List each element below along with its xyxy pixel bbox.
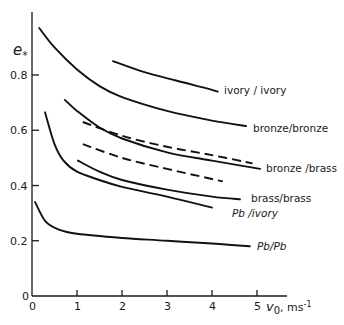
axes bbox=[32, 12, 287, 296]
curve-bronze-bronze bbox=[39, 28, 246, 126]
label-pb-ivory: Pb /ivory bbox=[232, 207, 279, 219]
y-ticks: 00.20.40.60.8 bbox=[10, 69, 39, 303]
curve-dashed-lower bbox=[83, 144, 223, 181]
label-ivory-ivory: ivory / ivory bbox=[224, 84, 286, 96]
y-axis-label: e* bbox=[13, 41, 28, 62]
x-axis-label: v0, ms-1 bbox=[266, 299, 312, 316]
label-pb-pb: Pb/Pb bbox=[257, 240, 287, 252]
label-bronze-brass: bronze /brass bbox=[266, 162, 337, 174]
x-tick-label: 1 bbox=[74, 300, 81, 313]
y-tick-label: 0.8 bbox=[10, 69, 28, 82]
x-tick-label: 2 bbox=[119, 300, 126, 313]
label-bronze-bronze: bronze/bronze bbox=[253, 122, 328, 134]
y-tick-label: 0 bbox=[22, 290, 29, 303]
y-tick-label: 0.2 bbox=[10, 235, 28, 248]
x-tick-label: 3 bbox=[164, 300, 171, 313]
curve-pb-pb bbox=[35, 202, 250, 246]
curve-bronze-brass-dashed-upper bbox=[83, 122, 253, 163]
curves bbox=[35, 28, 260, 246]
restitution-chart: 012345 00.20.40.60.8 e* v0, ms-1 ivory /… bbox=[0, 0, 344, 325]
x-tick-label: 4 bbox=[209, 300, 216, 313]
x-ticks: 012345 bbox=[29, 290, 261, 313]
y-tick-label: 0.4 bbox=[10, 180, 28, 193]
y-tick-label: 0.6 bbox=[10, 124, 28, 137]
x-tick-label: 0 bbox=[29, 300, 36, 313]
x-tick-label: 5 bbox=[254, 300, 261, 313]
label-brass-brass: brass/brass bbox=[251, 192, 311, 204]
curve-ivory-ivory bbox=[113, 61, 218, 91]
